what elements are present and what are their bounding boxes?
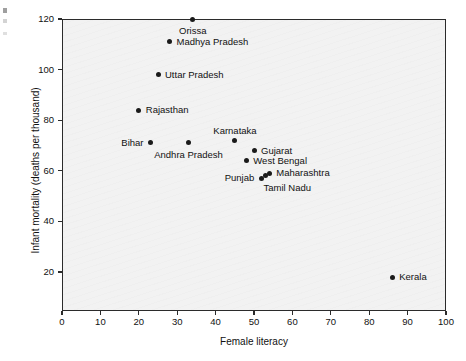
x-tick-label: 60: [272, 317, 312, 327]
x-axis-label: Female literacy: [62, 336, 446, 347]
x-tick-mark: [292, 311, 293, 315]
x-tick-mark: [330, 311, 331, 315]
data-point-label: Kerala: [399, 272, 426, 282]
x-tick-label: 10: [80, 317, 120, 327]
data-point-label: Rajasthan: [146, 105, 189, 115]
data-point: [136, 108, 141, 113]
data-point-label: Madhya Pradesh: [177, 37, 249, 47]
data-point: [252, 148, 257, 153]
data-point-label: Maharashtra: [276, 168, 329, 178]
data-point-label: West Bengal: [253, 156, 307, 166]
x-tick-mark: [61, 311, 62, 315]
x-tick-label: 40: [196, 317, 236, 327]
x-tick-label: 50: [234, 317, 274, 327]
x-tick-mark: [407, 311, 408, 315]
data-point: [244, 158, 249, 163]
x-tick-label: 80: [349, 317, 389, 327]
data-point-label: Orissa: [179, 26, 206, 36]
x-tick-label: 90: [388, 317, 428, 327]
y-tick-mark: [58, 170, 62, 171]
data-point-label: Uttar Pradesh: [165, 70, 224, 80]
data-point-label: Punjab: [225, 173, 255, 183]
data-point-label: Gujarat: [261, 146, 292, 156]
x-tick-mark: [177, 311, 178, 315]
x-tick-mark: [138, 311, 139, 315]
x-tick-label: 100: [426, 317, 466, 327]
data-point-label: Andhra Pradesh: [154, 150, 223, 160]
y-axis-label: Infant mortality (deaths per thousand): [30, 56, 41, 286]
data-point-label: Bihar: [121, 138, 143, 148]
y-tick-label: 120: [24, 14, 54, 24]
x-tick-mark: [100, 311, 101, 315]
data-point-label: Tamil Nadu: [264, 183, 312, 193]
y-tick-mark: [58, 221, 62, 222]
x-tick-label: 20: [119, 317, 159, 327]
x-tick-mark: [253, 311, 254, 315]
x-tick-label: 30: [157, 317, 197, 327]
y-tick-mark: [58, 69, 62, 70]
data-point: [390, 275, 395, 280]
scatter-plot-figure: 0102030405060708090100 20406080100120 Or…: [0, 0, 466, 361]
data-point: [156, 72, 161, 77]
data-point-label: Karnataka: [213, 126, 256, 136]
y-tick-mark: [58, 18, 62, 19]
x-tick-mark: [369, 311, 370, 315]
data-point: [190, 17, 195, 22]
x-tick-label: 70: [311, 317, 351, 327]
x-tick-label: 0: [42, 317, 82, 327]
x-tick-mark: [445, 311, 446, 315]
y-tick-mark: [58, 271, 62, 272]
y-tick-mark: [58, 120, 62, 121]
x-tick-mark: [215, 311, 216, 315]
scan-artifact: [3, 8, 7, 46]
